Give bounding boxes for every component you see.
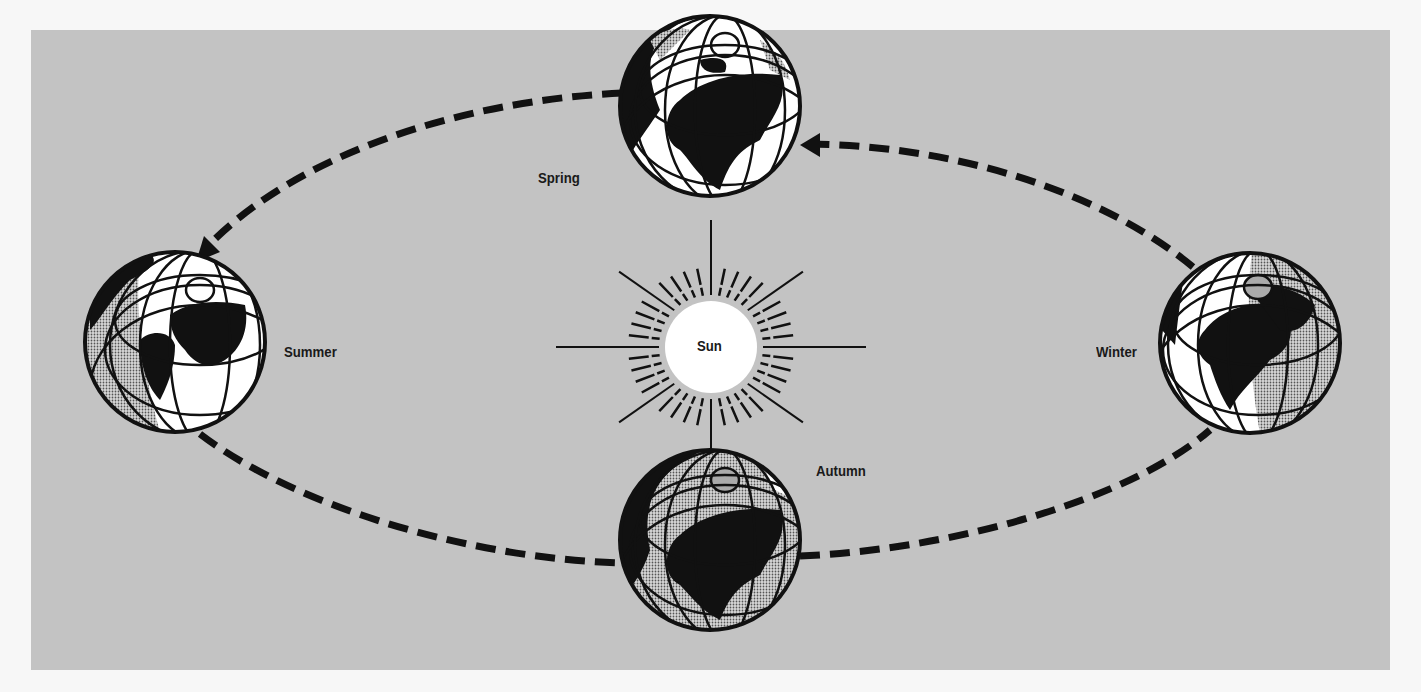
- season-label-spring: Spring: [538, 169, 580, 186]
- globe-winter: [1148, 250, 1368, 475]
- season-label-summer: Summer: [284, 343, 337, 360]
- season-label-winter: Winter: [1096, 343, 1137, 360]
- globe-spring: [615, 15, 835, 245]
- season-label-autumn: Autumn: [816, 462, 866, 479]
- arrowhead-icon: [800, 133, 820, 157]
- globe-summer: [85, 250, 310, 475]
- sun-label: Sun: [697, 337, 722, 354]
- globe-autumn: [615, 450, 835, 675]
